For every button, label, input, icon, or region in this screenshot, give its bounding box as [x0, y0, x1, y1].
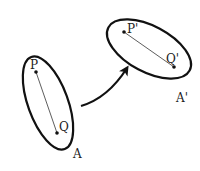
region-a: P Q A — [12, 50, 83, 161]
mapping-diagram: P Q A P' Q' A' — [0, 0, 200, 171]
label-q-prime: Q' — [166, 52, 179, 66]
segment-pq — [36, 72, 57, 133]
point-p-prime — [122, 30, 126, 34]
label-p: P — [30, 58, 38, 72]
ellipse-a — [12, 50, 83, 156]
label-q: Q — [59, 120, 69, 134]
label-p-prime: P' — [127, 22, 138, 36]
curved-arrow-icon — [81, 68, 127, 106]
region-a-prime: P' Q' A' — [98, 7, 200, 105]
label-a-prime: A' — [175, 91, 188, 105]
diagram-svg: P Q A P' Q' A' — [0, 0, 200, 171]
label-a: A — [72, 147, 82, 161]
